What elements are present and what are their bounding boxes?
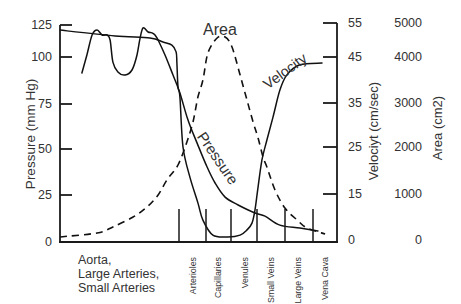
left-axis-ticks	[60, 25, 72, 195]
left-tick-label: 0	[45, 235, 52, 249]
area-tick-label: 2000	[394, 140, 422, 154]
category-label-capillaries: Capillaries	[213, 256, 223, 298]
left-tick-label: 125	[31, 18, 52, 32]
area-axis-title: Area (cm2)	[430, 96, 445, 160]
aorta-label-line: Small Arteries	[78, 281, 155, 295]
pressure-axis-title: Pressure (mm Hg)	[23, 79, 38, 189]
velocity-tick-labels: 0 15 25 35 45 55	[348, 16, 362, 247]
velocity-tick-label: 0	[348, 233, 355, 247]
circulation-chart: 0 25 50 75 100 125 0 15 25 35 45 55 0 10…	[0, 0, 461, 304]
category-label-large-veins: Large Veins	[293, 256, 303, 303]
area-tick-label: 4000	[394, 50, 422, 64]
area-tick-labels: 0 1000 2000 3000 4000 5000	[394, 16, 422, 247]
left-tick-label: 100	[31, 50, 52, 64]
velocity-tick-label: 55	[348, 16, 362, 30]
velocity-tick-label: 45	[348, 50, 362, 64]
area-tick-label: 3000	[394, 96, 422, 110]
velocity-tick-label: 15	[348, 187, 362, 201]
plot-area	[60, 28, 325, 237]
category-labels: Arterioles Capillaries Venules Small Vei…	[188, 256, 330, 303]
velocity-tick-label: 25	[348, 140, 362, 154]
area-tick-label: 5000	[394, 16, 422, 30]
aorta-label-line: Aorta,	[78, 253, 111, 267]
aorta-label-line: Large Arteries,	[78, 267, 159, 281]
category-label-vena-cava: Vena Cava	[320, 257, 330, 300]
area-curve-label: Area	[203, 21, 237, 38]
aorta-region-label: Aorta, Large Arteries, Small Arteries	[78, 253, 159, 295]
pressure-curve	[82, 28, 318, 231]
velocity-tick-label: 35	[348, 96, 362, 110]
left-tick-label: 50	[38, 142, 52, 156]
pressure-curve-label: Pressure	[194, 128, 242, 187]
category-label-arterioles: Arterioles	[188, 256, 198, 294]
category-label-small-veins: Small Veins	[266, 256, 276, 303]
velocity-axis-title: Velociyt (cm/sec)	[366, 82, 381, 180]
left-tick-label: 25	[38, 188, 52, 202]
category-label-venules: Venules	[240, 256, 250, 288]
area-tick-label: 0	[415, 233, 422, 247]
right-axis-ticks	[323, 23, 337, 194]
left-tick-label: 75	[38, 97, 52, 111]
area-tick-label: 1000	[394, 187, 422, 201]
category-dividers	[179, 209, 313, 242]
velocity-curve-label: Velocity	[260, 49, 310, 92]
